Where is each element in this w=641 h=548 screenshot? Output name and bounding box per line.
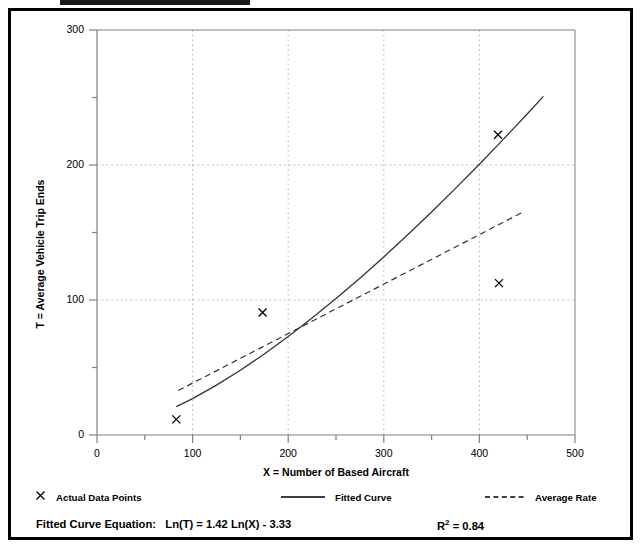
- data-point-marker: [172, 415, 180, 423]
- y-axis-label: T = Average Vehicle Trip Ends: [34, 154, 46, 354]
- x-tick-label: 400: [449, 447, 509, 459]
- legend-label: Actual Data Points: [56, 492, 142, 503]
- y-tick-label: 0: [44, 428, 84, 440]
- plot-wrapper: 300 200 100 0 0 100 200 300 400 500 T = …: [0, 0, 641, 548]
- vertical-gridlines: [193, 30, 480, 435]
- data-point-marker: [259, 309, 267, 317]
- legend-item-fitted-curve: Fitted Curve: [280, 488, 392, 506]
- data-point-marker: [495, 279, 503, 287]
- x-axis-label: X = Number of Based Aircraft: [97, 466, 575, 478]
- r-squared-symbol: R: [437, 520, 445, 532]
- equation-expression: Ln(T) = 1.42 Ln(X) - 3.33: [165, 518, 291, 530]
- x-tick-label: 0: [67, 447, 127, 459]
- x-axis-ticks: [97, 435, 575, 443]
- r-squared-exponent: 2: [445, 518, 449, 527]
- x-tick-label: 200: [258, 447, 318, 459]
- solid-line-icon: [280, 488, 326, 506]
- equation-row: Fitted Curve Equation: Ln(T) = 1.42 Ln(X…: [22, 518, 622, 538]
- equation-label: Fitted Curve Equation:: [36, 518, 156, 530]
- data-point-markers: [172, 131, 503, 424]
- y-tick-label: 200: [44, 158, 84, 170]
- legend-label: Average Rate: [535, 492, 597, 503]
- legend-item-average-rate: Average Rate: [484, 488, 597, 506]
- y-tick-label: 300: [44, 23, 84, 35]
- chart-legend: Actual Data Points Fitted Curve Average …: [22, 488, 622, 506]
- data-point-marker: [494, 131, 502, 139]
- x-tick-label: 500: [545, 447, 605, 459]
- y-axis-ticks: [89, 30, 97, 435]
- r-squared-annotation: R2 = 0.84: [437, 518, 484, 532]
- y-tick-label: 100: [44, 293, 84, 305]
- horizontal-gridlines: [97, 165, 575, 300]
- plot-border: [97, 30, 575, 435]
- legend-label: Fitted Curve: [335, 492, 392, 503]
- r-squared-value: = 0.84: [453, 520, 484, 532]
- average-rate-line: [178, 212, 522, 390]
- x-tick-label: 300: [354, 447, 414, 459]
- fitted-curve: [176, 96, 543, 406]
- x-tick-label: 100: [163, 447, 223, 459]
- fitted-curve-equation: Fitted Curve Equation: Ln(T) = 1.42 Ln(X…: [36, 518, 291, 530]
- x-marker-icon: [34, 488, 47, 506]
- dashed-line-icon: [484, 488, 526, 506]
- legend-item-actual-data-points: Actual Data Points: [34, 488, 142, 506]
- chart-page: 300 200 100 0 0 100 200 300 400 500 T = …: [0, 0, 641, 548]
